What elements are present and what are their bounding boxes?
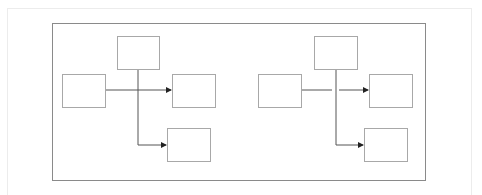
connector-top-to-bottom — [336, 69, 363, 145]
diagram-right — [259, 37, 413, 162]
box-bottom — [168, 129, 211, 162]
diagram-left — [63, 37, 216, 162]
box-top — [315, 37, 358, 70]
box-left — [259, 75, 302, 108]
box-right — [370, 75, 413, 108]
box-top — [118, 37, 160, 70]
box-right — [173, 75, 216, 108]
connector-top-to-bottom — [138, 69, 166, 145]
flow-diagrams — [0, 0, 482, 195]
box-left — [63, 75, 106, 108]
box-bottom — [365, 129, 408, 162]
